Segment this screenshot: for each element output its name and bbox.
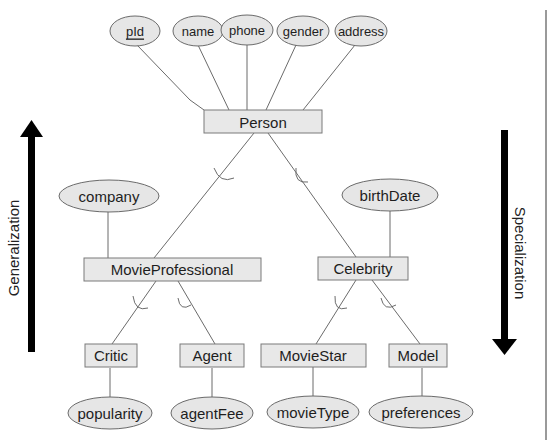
entity-label: Critic [94, 347, 129, 364]
attribute-gender: gender [277, 16, 329, 46]
leaf-attribute-links [110, 367, 422, 398]
generalization-arrow: Generalization [5, 120, 44, 352]
attribute-label: birthDate [360, 187, 421, 204]
entity-label: MovieStar [279, 347, 347, 364]
attribute-popularity: popularity [68, 397, 152, 429]
attribute-agentfee: agentFee [171, 397, 253, 429]
entity-moviestar: MovieStar [261, 344, 366, 367]
entity-critic: Critic [85, 344, 137, 367]
attribute-label: name [182, 24, 215, 39]
attribute-preferences: preferences [369, 396, 473, 428]
entity-label: Person [239, 114, 287, 131]
attribute-company: company [59, 180, 159, 212]
attribute-name: name [173, 16, 223, 46]
isa-links-movieprofessional [112, 281, 215, 344]
entity-celebrity: Celebrity [318, 257, 408, 280]
entity-person: Person [204, 110, 322, 133]
person-attribute-links [137, 45, 355, 110]
entity-label: MovieProfessional [111, 261, 234, 278]
attribute-label: agentFee [180, 405, 243, 422]
isa-links-celebrity [316, 280, 420, 344]
attribute-phone: phone [221, 15, 273, 45]
specialization-label: Specialization [512, 207, 529, 300]
attribute-label: movieType [277, 404, 350, 421]
attribute-label: phone [229, 23, 265, 38]
arrow-down-icon [492, 339, 517, 355]
attribute-movietype: movieType [267, 396, 359, 428]
entity-movieprofessional: MovieProfessional [84, 258, 261, 281]
attribute-pid: pId [110, 16, 160, 46]
entity-label: Model [398, 347, 439, 364]
attribute-birthdate: birthDate [342, 179, 438, 211]
attribute-label: gender [283, 24, 324, 39]
generalization-label: Generalization [5, 200, 22, 297]
entity-label: Celebrity [333, 260, 393, 277]
entity-agent: Agent [180, 344, 244, 367]
specialization-arrow: Specialization [492, 130, 529, 355]
attribute-label: company [79, 188, 140, 205]
attribute-label: address [338, 24, 385, 39]
entity-label: Agent [192, 347, 232, 364]
attribute-label: popularity [77, 405, 143, 422]
attribute-address: address [335, 16, 387, 46]
attribute-label: preferences [381, 404, 460, 421]
attribute-label: pId [126, 24, 144, 39]
arrow-up-icon [20, 120, 43, 137]
er-diagram: pId name phone gender address Person com… [0, 0, 553, 446]
isa-links-person [154, 133, 356, 258]
entity-model: Model [389, 344, 447, 367]
